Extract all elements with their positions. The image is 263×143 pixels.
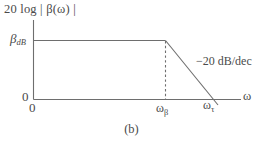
rolloff-segment <box>166 41 219 106</box>
plot-drawing <box>0 0 263 143</box>
bode-plot-figure: 20 log | β(ω) | βdB 0 0 ωβ ωτ ω −20 dB/d… <box>0 0 263 143</box>
